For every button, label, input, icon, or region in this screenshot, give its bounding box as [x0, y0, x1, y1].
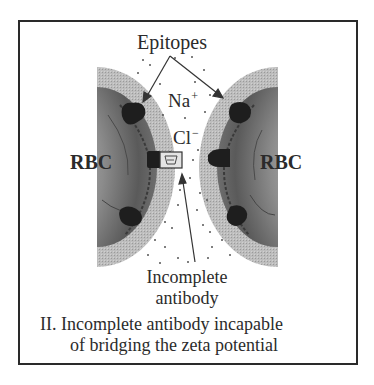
- chloride-symbol: Cl: [173, 127, 191, 148]
- sodium-charge: +: [191, 89, 198, 103]
- caption-line2: of bridging the zeta potential: [70, 336, 278, 354]
- incomplete-antibody: [160, 152, 182, 168]
- epitopes-label: Epitopes: [137, 32, 207, 52]
- chloride-ion-label: Cl−: [173, 127, 199, 147]
- epitope-middle-left: [147, 151, 161, 168]
- incomplete-antibody-label-line2: antibody: [0, 289, 374, 307]
- chloride-charge: −: [192, 126, 199, 140]
- sodium-symbol: Na: [168, 90, 190, 111]
- incomplete-antibody-label-line1: Incomplete: [0, 268, 374, 286]
- rbc-right-label: RBC: [260, 152, 302, 172]
- rbc-left-label: RBC: [70, 152, 112, 172]
- caption-line1: II. Incomplete antibody incapable: [40, 315, 283, 333]
- epitope-middle-right: [208, 149, 230, 167]
- sodium-ion-label: Na+: [168, 90, 198, 110]
- antibody-pointer-arrow: [179, 174, 195, 262]
